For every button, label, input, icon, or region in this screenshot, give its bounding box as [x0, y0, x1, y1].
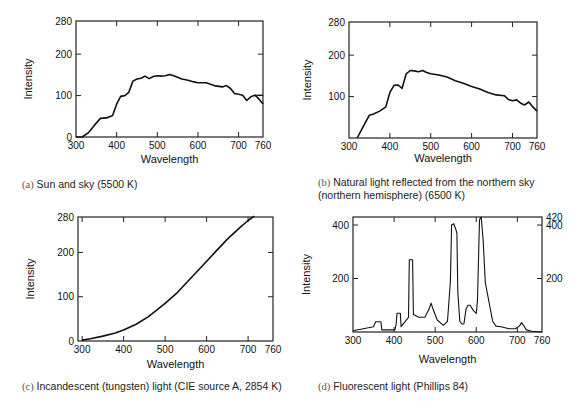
y-tick-label: 400 [332, 220, 349, 231]
caption-d: (d) Fluorescent light (Phillips 84) [318, 380, 580, 393]
spectrum-curve [353, 217, 542, 332]
panel-d: 300400500600700760200400200400420Wavelen… [0, 0, 580, 408]
x-tick-label: 760 [534, 335, 551, 346]
y-tick-label: 200 [332, 273, 349, 284]
x-tick-label: 600 [468, 335, 485, 346]
y-tick-label-right: 200 [546, 273, 563, 284]
caption-tag-d: (d) [318, 381, 330, 392]
x-tick-label: 400 [386, 335, 403, 346]
y-tick-label-right: 420 [546, 212, 563, 223]
x-tick-label: 700 [509, 335, 526, 346]
x-tick-label: 300 [345, 335, 362, 346]
chart-d: 300400500600700760200400200400420Wavelen… [0, 0, 580, 408]
x-axis-title: Wavelength [419, 353, 477, 365]
caption-text-d: Fluorescent light (Phillips 84) [333, 380, 468, 392]
y-axis-title: Intensity [300, 254, 312, 295]
x-tick-label: 500 [427, 335, 444, 346]
